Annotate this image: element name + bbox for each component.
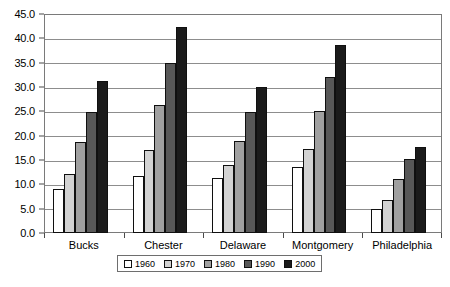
- bar-delaware-1970: [223, 165, 234, 233]
- legend-label-1990: 1990: [255, 259, 275, 269]
- x-category-label-chester: Chester: [144, 239, 183, 251]
- legend-item-1990: 1990: [244, 259, 275, 269]
- bar-group: [292, 14, 347, 233]
- bar-chester-1980: [154, 105, 165, 233]
- legend-label-1980: 1980: [215, 259, 235, 269]
- bar-bucks-1970: [64, 174, 75, 233]
- bars-layer: [44, 14, 442, 233]
- bar-montgomery-1980: [314, 111, 325, 233]
- y-tick-label: 35.0: [14, 57, 35, 69]
- bar-group: [133, 14, 188, 233]
- x-tick-mark: [362, 233, 363, 238]
- x-category-label-bucks: Bucks: [69, 239, 99, 251]
- y-tick-label: 0.0: [20, 227, 35, 239]
- bar-bucks-2000: [97, 81, 108, 233]
- bar-delaware-1990: [245, 112, 256, 233]
- legend-item-1960: 1960: [124, 259, 155, 269]
- bar-philadelphia-2000: [415, 147, 426, 233]
- legend-label-1960: 1960: [135, 259, 155, 269]
- bar-group: [212, 14, 267, 233]
- x-category-label-montgomery: Montgomery: [292, 239, 353, 251]
- legend-item-2000: 2000: [284, 259, 315, 269]
- legend-label-1970: 1970: [175, 259, 195, 269]
- legend-swatch-1970: [164, 260, 172, 268]
- bar-montgomery-2000: [335, 45, 346, 233]
- bar-chester-1970: [144, 150, 155, 233]
- bar-chester-1960: [133, 176, 144, 233]
- y-tick-label: 15.0: [14, 154, 35, 166]
- bar-group: [371, 14, 426, 233]
- bar-montgomery-1970: [303, 149, 314, 233]
- legend-swatch-1980: [204, 260, 212, 268]
- bar-chart: 0.05.010.015.020.025.030.035.040.045.0 B…: [0, 0, 450, 287]
- legend-label-2000: 2000: [295, 259, 315, 269]
- bar-delaware-1960: [212, 178, 223, 233]
- x-tick-mark: [283, 233, 284, 238]
- x-category-label-philadelphia: Philadelphia: [372, 239, 432, 251]
- x-tick-mark: [441, 233, 442, 238]
- y-tick-label: 20.0: [14, 130, 35, 142]
- bar-chester-1990: [165, 63, 176, 233]
- bar-delaware-2000: [256, 87, 267, 233]
- legend-item-1980: 1980: [204, 259, 235, 269]
- y-tick-label: 40.0: [14, 32, 35, 44]
- bar-montgomery-1960: [292, 167, 303, 233]
- y-tick-label: 10.0: [14, 178, 35, 190]
- y-tick-label: 30.0: [14, 81, 35, 93]
- bar-philadelphia-1990: [404, 159, 415, 233]
- chart-legend: 19601970198019902000: [117, 255, 322, 272]
- bar-philadelphia-1960: [371, 209, 382, 233]
- bar-chester-2000: [176, 27, 187, 233]
- y-tick-label: 25.0: [14, 105, 35, 117]
- legend-item-1970: 1970: [164, 259, 195, 269]
- bar-bucks-1990: [86, 112, 97, 233]
- bar-group: [53, 14, 108, 233]
- bar-delaware-1980: [234, 141, 245, 233]
- x-axis: BucksChesterDelawareMontgomeryPhiladelph…: [44, 233, 442, 255]
- legend-swatch-1990: [244, 260, 252, 268]
- bar-philadelphia-1970: [382, 200, 393, 233]
- x-tick-mark: [203, 233, 204, 238]
- y-tick-label: 5.0: [20, 203, 35, 215]
- y-tick-label: 45.0: [14, 8, 35, 20]
- legend-swatch-1960: [124, 260, 132, 268]
- legend-swatch-2000: [284, 260, 292, 268]
- bar-bucks-1960: [53, 189, 64, 233]
- y-axis: 0.05.010.015.020.025.030.035.040.045.0: [0, 0, 44, 233]
- x-tick-mark: [44, 233, 45, 238]
- bar-montgomery-1990: [325, 77, 336, 233]
- bar-bucks-1980: [75, 142, 86, 233]
- x-tick-mark: [124, 233, 125, 238]
- x-category-label-delaware: Delaware: [220, 239, 266, 251]
- bar-philadelphia-1980: [393, 179, 404, 233]
